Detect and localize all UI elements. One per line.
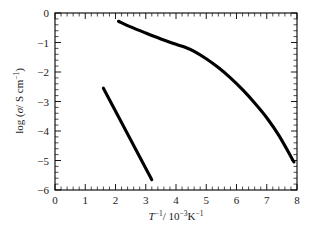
x-tick-label: 5: [204, 194, 210, 206]
y-tick-label: −3: [37, 96, 49, 108]
arrhenius-conductivity-plot: 012345678 0−1−2−3−4−5−6 T−1/ 10−3K−1 log…: [0, 0, 311, 230]
y-tick-label: −5: [37, 155, 49, 167]
x-tick-label: 2: [113, 194, 119, 206]
x-tick-label: 4: [173, 194, 179, 206]
x-tick-label: 8: [294, 194, 300, 206]
x-axis-title-slash: / 10: [163, 210, 180, 222]
x-tick-label: 7: [264, 194, 270, 206]
y-axis-title-suffix: ): [13, 68, 26, 72]
x-axis-title-scale-exponent: −3: [180, 209, 188, 218]
x-tick-label: 3: [143, 194, 149, 206]
y-tick-label: −6: [37, 184, 49, 196]
y-tick-label: −2: [37, 66, 49, 78]
chart-figure: 012345678 0−1−2−3−4−5−6 T−1/ 10−3K−1 log…: [0, 0, 311, 230]
y-tick-label: −4: [37, 125, 49, 137]
y-axis-title-prefix: log (: [13, 113, 26, 134]
x-axis-title-unit-exponent: −1: [195, 209, 203, 218]
y-tick-label: 0: [44, 7, 50, 19]
x-axis-title-symbol-exponent: −1: [155, 209, 163, 218]
y-tick-label: −1: [37, 37, 49, 49]
x-tick-label: 1: [83, 194, 89, 206]
x-tick-label: 0: [52, 194, 58, 206]
x-tick-label: 6: [234, 194, 240, 206]
x-axis-title-unit: K: [187, 210, 195, 222]
y-axis-title-units: / S cm: [13, 79, 25, 108]
